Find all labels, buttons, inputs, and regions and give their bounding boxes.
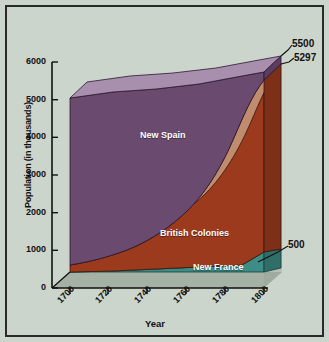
- y-tick-1000: 1000: [8, 244, 46, 254]
- block-shadow: [52, 272, 282, 288]
- callout-500: 500: [288, 239, 305, 250]
- y-tick-0: 0: [8, 282, 46, 292]
- y-tick-marks: [52, 62, 58, 288]
- area-british-colonies-side: [264, 64, 281, 252]
- series-label-new-spain: New Spain: [140, 130, 186, 140]
- chart-plot-area: [0, 0, 329, 342]
- callout-leader-5297: [281, 58, 294, 64]
- series-label-new-france: New France: [193, 262, 244, 272]
- x-axis-title: Year: [95, 318, 215, 329]
- y-tick-6000: 6000: [8, 56, 46, 66]
- y-axis-title: Population (in thousands): [23, 75, 33, 235]
- callout-5297: 5297: [294, 52, 316, 63]
- area-new-france-side: [264, 249, 281, 272]
- callout-leader-5500: [281, 45, 292, 56]
- callout-5500: 5500: [292, 38, 314, 49]
- chart-root: 6000 5000 4000 3000 2000 1000 0 1700 172…: [0, 0, 329, 342]
- series-label-british-colonies: British Colonies: [160, 228, 229, 238]
